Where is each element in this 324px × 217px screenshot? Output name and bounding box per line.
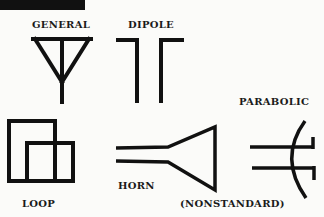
parabolic-antenna-icon — [250, 121, 314, 198]
horn-label: HORN — [118, 180, 155, 191]
dipole-antenna-icon — [116, 40, 184, 103]
parabolic-label: PARABOLIC — [239, 96, 309, 107]
general-antenna-icon — [33, 39, 91, 102]
general-label: GENERAL — [32, 19, 90, 30]
horn-nonstandard-note: (NONSTANDARD) — [180, 198, 285, 209]
antenna-symbols-diagram — [0, 0, 324, 217]
loop-antenna-icon — [9, 121, 73, 181]
dipole-label: DIPOLE — [128, 19, 174, 30]
loop-label: LOOP — [22, 198, 55, 209]
